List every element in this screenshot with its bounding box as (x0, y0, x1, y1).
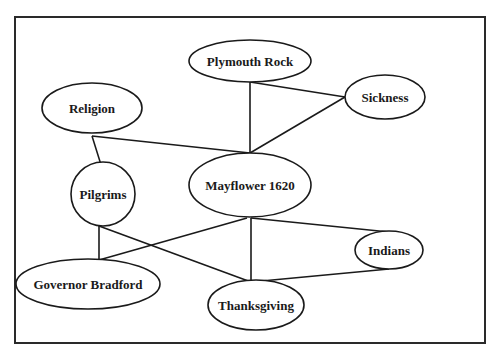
node-mayflower-1620: Mayflower 1620 (189, 153, 311, 217)
node-thanksgiving: Thanksgiving (208, 280, 304, 330)
node-label: Plymouth Rock (207, 54, 294, 69)
node-sickness: Sickness (345, 75, 425, 119)
node-label: Mayflower 1620 (205, 178, 295, 193)
node-label: Governor Bradford (33, 277, 143, 292)
node-indians: Indians (355, 231, 423, 269)
node-label: Thanksgiving (218, 298, 294, 313)
node-plymouth-rock: Plymouth Rock (189, 40, 311, 82)
node-label: Religion (69, 101, 116, 116)
node-label: Indians (368, 243, 410, 258)
node-label: Sickness (362, 90, 409, 105)
node-pilgrims: Pilgrims (71, 162, 135, 226)
node-label: Pilgrims (80, 187, 127, 202)
node-religion: Religion (42, 83, 142, 133)
node-governor-bradford: Governor Bradford (16, 259, 160, 309)
concept-map: Plymouth RockSicknessReligionMayflower 1… (0, 0, 498, 356)
